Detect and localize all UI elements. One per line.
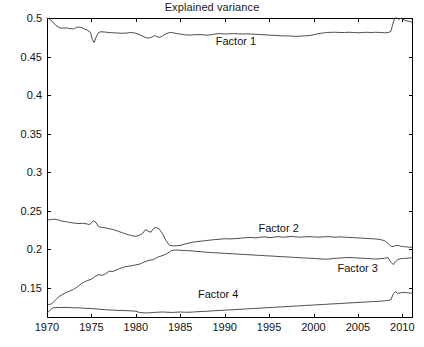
y-tick-label: 0.45 <box>0 51 42 63</box>
x-tick-label: 1985 <box>157 321 203 333</box>
series-annotation-factor-3: Factor 3 <box>337 262 377 274</box>
x-tick-label: 2005 <box>335 321 381 333</box>
series-annotation-factor-2: Factor 2 <box>258 222 298 234</box>
y-tick-label: 0.3 <box>0 166 42 178</box>
chart-figure: Explained variance 0.150.20.250.30.350.4… <box>0 0 424 347</box>
y-tick-label: 0.2 <box>0 243 42 255</box>
x-tick-label: 1980 <box>113 321 159 333</box>
x-tick-label: 2000 <box>291 321 337 333</box>
x-tick-label: 2010 <box>379 321 424 333</box>
y-tick-label: 0.25 <box>0 205 42 217</box>
x-tick-label: 1975 <box>68 321 114 333</box>
y-tick-label: 0.4 <box>0 89 42 101</box>
series-line-2 <box>47 219 412 247</box>
y-tick-label: 0.5 <box>0 12 42 24</box>
y-tick-label: 0.15 <box>0 282 42 294</box>
x-tick-label: 1970 <box>24 321 70 333</box>
x-tick-label: 1995 <box>246 321 292 333</box>
x-tick-label: 1990 <box>202 321 248 333</box>
y-tick-label: 0.35 <box>0 128 42 140</box>
series-annotation-factor-1: Factor 1 <box>216 35 256 47</box>
series-annotation-factor-4: Factor 4 <box>198 288 238 300</box>
